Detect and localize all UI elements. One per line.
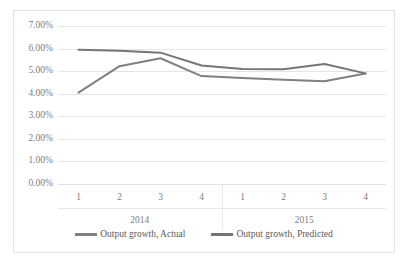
chart-legend: Output growth, ActualOutput growth, Pred… (14, 229, 394, 239)
legend-swatch (211, 233, 233, 236)
y-axis-tick-label: 7.00% (28, 21, 53, 31)
x-axis-tick-label: 4 (345, 185, 386, 208)
y-axis-tick-label: 2.00% (28, 134, 53, 144)
chart-container: 7.00%6.00%5.00%4.00%3.00%2.00%1.00%0.00%… (13, 10, 395, 253)
x-axis-year-groups: 20142015 (58, 208, 386, 230)
y-axis-tick-label: 5.00% (28, 66, 53, 76)
x-axis-tick-label: 4 (181, 185, 222, 208)
legend-label: Output growth, Predicted (236, 229, 332, 239)
year-divider (222, 185, 223, 208)
legend-item[interactable]: Output growth, Actual (75, 229, 185, 239)
x-axis-tick-label: 2 (99, 185, 140, 208)
x-axis-tick-label: 1 (222, 185, 263, 208)
y-axis-tick-label: 6.00% (28, 44, 53, 54)
plot-area: 7.00%6.00%5.00%4.00%3.00%2.00%1.00%0.00% (58, 26, 386, 184)
x-axis-tick-label: 3 (140, 185, 181, 208)
legend-swatch (75, 233, 97, 236)
y-axis-tick-label: 1.00% (28, 157, 53, 167)
legend-item[interactable]: Output growth, Predicted (211, 229, 332, 239)
x-axis: 12341234 20142015 (58, 184, 386, 230)
x-axis-year-label: 2014 (58, 209, 222, 230)
x-axis-tick-label: 2 (263, 185, 304, 208)
x-axis-tick-label: 1 (58, 185, 99, 208)
legend-label: Output growth, Actual (100, 229, 185, 239)
y-axis-tick-label: 4.00% (28, 89, 53, 99)
y-axis-tick-label: 3.00% (28, 112, 53, 122)
x-axis-tick-label: 3 (304, 185, 345, 208)
x-axis-year-label: 2015 (222, 209, 387, 230)
y-axis-tick-label: 0.00% (28, 179, 53, 189)
x-axis-quarter-ticks: 12341234 (58, 185, 386, 208)
series-lines (58, 26, 386, 184)
series-line (79, 50, 366, 74)
